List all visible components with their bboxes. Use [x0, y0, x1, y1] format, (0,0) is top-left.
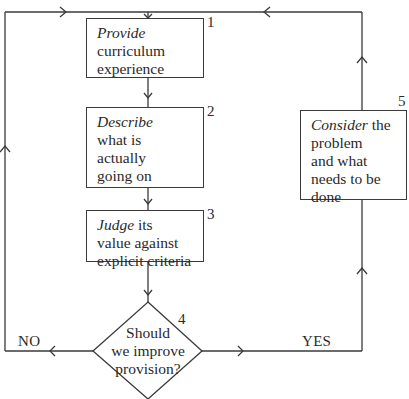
step-5-line-5: done — [311, 188, 406, 206]
step-2-line-1: Describe — [97, 113, 153, 130]
step-5-line-1-rest: the — [368, 116, 391, 133]
yes-branch-label: YES — [302, 333, 331, 350]
step-5-line-1-italic: Consider — [311, 116, 368, 133]
step-4-number: 4 — [178, 311, 186, 328]
step-5-line-4: needs to be — [311, 170, 406, 188]
step-4-line-2: we improve — [98, 342, 198, 360]
step-1-line-2: curriculum — [97, 42, 203, 60]
step-5-line-3: and what — [311, 152, 406, 170]
step-1-provide-box: Provide curriculum experience — [86, 18, 204, 78]
step-2-line-4: going on — [97, 167, 203, 185]
step-3-number: 3 — [207, 206, 215, 223]
no-branch-label: NO — [18, 333, 40, 350]
step-1-line-1: Provide — [97, 24, 146, 41]
step-3-line-2: value against — [97, 234, 203, 252]
step-3-line-3: explicit criteria — [97, 252, 203, 270]
step-2-number: 2 — [207, 103, 215, 120]
step-4-decision-text: Should we improve provision? — [98, 324, 198, 378]
step-3-line-1-italic: Judge — [97, 216, 134, 233]
step-1-number: 1 — [207, 14, 215, 31]
step-2-line-2: what is — [97, 131, 203, 149]
step-1-line-3: experience — [97, 60, 203, 78]
step-5-consider-box: Consider the problem and what needs to b… — [300, 110, 407, 200]
step-2-describe-box: Describe what is actually going on — [86, 107, 204, 188]
step-4-line-3: provision? — [98, 360, 198, 378]
step-3-judge-box: Judge its value against explicit criteri… — [86, 210, 204, 262]
step-3-line-1-rest: its — [134, 216, 153, 233]
step-2-line-3: actually — [97, 149, 203, 167]
step-5-line-2: problem — [311, 134, 406, 152]
step-5-number: 5 — [398, 93, 406, 110]
